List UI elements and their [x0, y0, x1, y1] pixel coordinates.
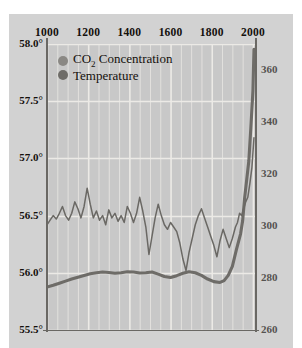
legend-item-co2: CO2 Concentration — [58, 54, 172, 68]
legend-marker-co2-icon — [58, 56, 68, 66]
chart-svg — [47, 44, 255, 330]
x-tick-label-1800: 1800 — [190, 26, 234, 38]
left-tick-label-55.5°: 55.5° — [0, 323, 43, 335]
right-tick-label-320: 320 — [261, 167, 278, 179]
left-tick-label-58.0°: 58.0° — [0, 37, 43, 49]
legend-marker-temperature-icon — [58, 70, 68, 80]
figure-caption — [150, 334, 260, 341]
left-tick-label-57.0°: 57.0° — [0, 151, 43, 163]
figure: 100012001400160018002000 58.0°57.5°57.0°… — [0, 0, 302, 348]
left-tick-label-57.5°: 57.5° — [0, 94, 43, 106]
right-tick-label-280: 280 — [261, 271, 278, 283]
plot-area — [47, 44, 255, 330]
x-tick-label-1400: 1400 — [107, 26, 151, 38]
left-tick-label-56.5°: 56.5° — [0, 209, 43, 221]
right-tick-label-260: 260 — [261, 323, 278, 335]
bottom-axis-line — [43, 330, 259, 331]
left-tick-label-56.0°: 56.0° — [0, 266, 43, 278]
right-tick-label-300: 300 — [261, 219, 278, 231]
left-axis-line — [46, 38, 48, 332]
x-tick-label-2000: 2000 — [231, 26, 275, 38]
right-tick-label-360: 360 — [261, 63, 278, 75]
vertical-gridlines — [48, 44, 254, 330]
right-axis-line — [255, 38, 257, 332]
x-tick-label-1200: 1200 — [66, 26, 110, 38]
x-tick-label-1600: 1600 — [149, 26, 193, 38]
right-tick-label-340: 340 — [261, 115, 278, 127]
legend-label-temperature: Temperature — [73, 69, 139, 82]
chart-legend: CO2 Concentration Temperature — [58, 54, 172, 82]
